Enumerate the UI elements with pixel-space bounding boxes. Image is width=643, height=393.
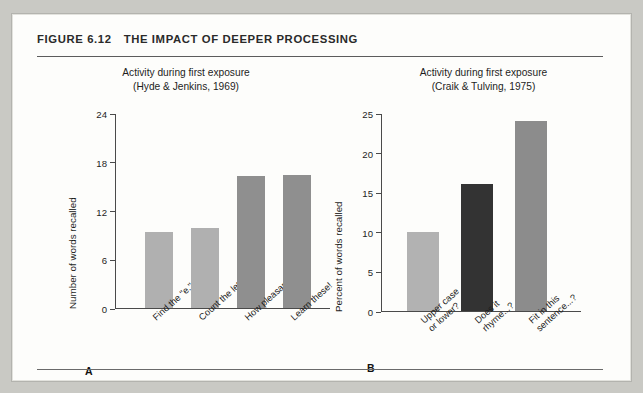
chart-a-y-tick-label: 0 xyxy=(102,304,107,315)
chart-a-y-tick xyxy=(110,309,115,310)
chart-b-y-tick xyxy=(376,312,381,313)
chart-a-bar xyxy=(145,232,173,308)
chart-b-y-tick xyxy=(376,272,381,273)
chart-b-y-tick-label: 5 xyxy=(368,267,373,278)
chart-a-y-tick-label: 6 xyxy=(102,255,107,266)
chart-a-y-axis-label: Number of words recalled xyxy=(67,197,78,309)
chart-a-title-line2: (Hyde & Jenkins, 1969) xyxy=(31,80,341,94)
footer-divider xyxy=(37,369,603,370)
chart-b-bar xyxy=(461,184,493,311)
figure-number: FIGURE 6.12 xyxy=(37,33,112,45)
chart-a-bar xyxy=(191,228,219,308)
panel-b: Activity during first exposure (Craik & … xyxy=(341,66,626,366)
chart-b-y-axis xyxy=(381,114,382,312)
chart-b-title-line2: (Craik & Tulving, 1975) xyxy=(341,80,626,94)
chart-a-title: Activity during first exposure (Hyde & J… xyxy=(31,66,341,93)
chart-b-y-tick-label: 10 xyxy=(362,227,373,238)
chart-a-y-tick xyxy=(110,162,115,163)
figure-title: THE IMPACT OF DEEPER PROCESSING xyxy=(124,33,358,45)
chart-a-plot-area: Number of words recalled 06121824Find th… xyxy=(115,114,320,309)
panel-a-letter: A xyxy=(85,365,93,377)
chart-a-y-tick-label: 12 xyxy=(96,206,107,217)
chart-b-title: Activity during first exposure (Craik & … xyxy=(341,66,626,93)
chart-b-y-tick-label: 25 xyxy=(362,109,373,120)
chart-b-bar xyxy=(515,121,547,311)
panel-b-letter: B xyxy=(367,362,375,374)
chart-b-y-tick xyxy=(376,114,381,115)
chart-b-y-tick-label: 20 xyxy=(362,148,373,159)
chart-b-y-tick-label: 0 xyxy=(368,307,373,318)
chart-a-y-tick-label: 24 xyxy=(96,109,107,120)
chart-b-y-tick xyxy=(376,193,381,194)
figure-header: FIGURE 6.12THE IMPACT OF DEEPER PROCESSI… xyxy=(37,33,597,45)
chart-a-bar xyxy=(237,176,265,308)
chart-a-y-tick xyxy=(110,211,115,212)
panel-a: Activity during first exposure (Hyde & J… xyxy=(31,66,341,366)
chart-b-y-axis-label: Percent of words recalled xyxy=(333,201,344,312)
chart-a-y-tick-label: 18 xyxy=(96,157,107,168)
chart-b-y-tick-label: 15 xyxy=(362,188,373,199)
chart-a-y-tick xyxy=(110,260,115,261)
chart-b-title-line1: Activity during first exposure xyxy=(420,67,547,78)
chart-a-y-axis xyxy=(115,114,116,309)
header-divider xyxy=(37,56,603,57)
chart-a-title-line1: Activity during first exposure xyxy=(122,67,249,78)
chart-b-bar xyxy=(407,232,439,311)
chart-a-bar xyxy=(283,175,311,308)
figure-card: FIGURE 6.12THE IMPACT OF DEEPER PROCESSI… xyxy=(11,13,632,382)
chart-a-y-tick xyxy=(110,114,115,115)
chart-b-y-tick xyxy=(376,153,381,154)
chart-b-y-tick xyxy=(376,232,381,233)
chart-b-plot-area: Percent of words recalled 0510152025Uppe… xyxy=(381,114,576,312)
